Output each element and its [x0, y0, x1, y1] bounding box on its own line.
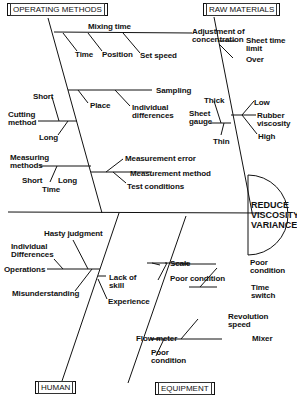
- effect-line: REDUCE: [251, 200, 297, 210]
- cause-lack-of-skill: Lack ofskill: [109, 274, 136, 290]
- cause-poor-condition-1: Poor condition: [170, 275, 225, 283]
- cause-sheet-time-limit: Sheet timelimit: [246, 37, 285, 53]
- cause-high: High: [258, 133, 275, 141]
- cause-misunderstanding: Misunderstanding: [12, 290, 79, 298]
- cause-time-switch: Timeswitch: [251, 284, 275, 300]
- category-operating-methods: OPERATING METHODS: [7, 3, 108, 16]
- category-human: HUMAN: [35, 381, 76, 394]
- cause-measurement-method: Measurement method: [130, 170, 211, 178]
- cause-poor-condition-2: Poorcondition: [250, 259, 285, 275]
- effect-line: VARIANCE: [251, 220, 297, 230]
- category-raw-materials: RAW MATERIALS: [203, 3, 280, 16]
- cause-hasty-judgment: Hasty judgment: [44, 230, 103, 238]
- cause-mm-long: Long: [58, 177, 77, 185]
- cause-mm-time: Time: [42, 186, 60, 194]
- cause-sampling: Sampling: [156, 87, 191, 95]
- cause-rubber-viscosity: Rubberviscosity: [257, 112, 290, 128]
- fishbone-diagram: OPERATING METHODS RAW MATERIALS HUMAN EQ…: [0, 0, 297, 402]
- cause-over: Over: [246, 56, 264, 64]
- cause-low: Low: [254, 99, 270, 107]
- cause-test-conditions: Test conditions: [127, 183, 184, 191]
- cause-set-speed: Set speed: [140, 52, 177, 60]
- cause-thick: Thick: [204, 97, 224, 105]
- cause-mixing-time: Mixing time: [88, 23, 131, 31]
- cause-place: Place: [90, 102, 110, 110]
- cause-individual-differences: Individualdifferences: [132, 104, 174, 120]
- category-label: OPERATING METHODS: [10, 3, 105, 16]
- cause-experience: Experience: [108, 298, 150, 306]
- cause-sheet-gauge: Sheetgauge: [189, 110, 212, 126]
- cause-adjustment: Adjustment ofconcentration: [192, 28, 244, 44]
- cause-flow-meter: Flow meter: [136, 335, 177, 343]
- cause-mixer: Mixer: [252, 335, 272, 343]
- cause-thin: Thin: [213, 138, 229, 146]
- cause-measurement-error: Measurement error: [125, 155, 196, 163]
- effect-line: VISCOSITY: [251, 210, 297, 220]
- cause-cutting-method: Cuttingmethod: [8, 111, 36, 127]
- cause-operations: Operations: [4, 266, 45, 274]
- cause-revolution-speed: Revolutionspeed: [228, 313, 268, 329]
- spine-line: [8, 212, 262, 213]
- cause-position: Position: [102, 51, 133, 59]
- effect-label: REDUCE VISCOSITY VARIANCE: [251, 200, 297, 230]
- cause-measuring-methods: Measuringmethods: [10, 154, 49, 170]
- cause-scale: Scale: [170, 260, 190, 268]
- cause-time: Time: [75, 51, 93, 59]
- cause-poor-condition-3: Poorcondition: [151, 349, 186, 365]
- category-label: RAW MATERIALS: [206, 3, 277, 16]
- category-label: HUMAN: [38, 381, 73, 394]
- cause-mm-short: Short: [22, 177, 42, 185]
- cause-long: Long: [39, 134, 58, 142]
- cause-short: Short: [33, 93, 53, 101]
- category-equipment: EQUIPMENT: [155, 382, 215, 395]
- category-label: EQUIPMENT: [158, 382, 212, 395]
- cause-individual-differences-human: IndividualDifferences: [11, 243, 53, 259]
